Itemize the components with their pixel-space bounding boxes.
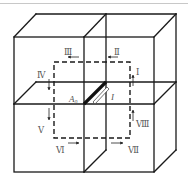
label-VII: Ⅶ <box>127 145 139 155</box>
amperian-loop <box>54 62 130 138</box>
label-current-I: I <box>110 92 115 102</box>
label-V: Ⅴ <box>37 125 45 135</box>
label-III: Ⅲ <box>64 47 72 57</box>
label-VI: Ⅵ <box>55 145 65 155</box>
label-A0: A₀ <box>68 94 78 104</box>
wire-A0 <box>84 82 109 104</box>
segment-arrows <box>49 57 133 143</box>
label-IV: Ⅳ <box>37 70 46 80</box>
label-VIII: Ⅷ <box>135 119 149 129</box>
label-I: Ⅰ <box>136 67 139 77</box>
label-II: Ⅱ <box>114 47 120 57</box>
cube-loop-diagram: Ⅰ Ⅱ Ⅲ Ⅳ Ⅴ Ⅵ Ⅶ Ⅷ A₀ I <box>0 0 188 182</box>
